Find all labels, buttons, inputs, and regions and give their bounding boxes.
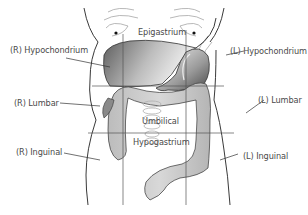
label-l-inguinal: (L) Inguinal <box>243 151 288 161</box>
label-l-lumbar: (L) Lumbar <box>258 95 302 105</box>
label-umbilical: Umbilical <box>142 116 179 126</box>
nipple-right <box>114 31 117 34</box>
nipple-left <box>192 31 195 34</box>
label-hypogastrium: Hypogastrium <box>133 137 190 147</box>
label-r-hypochondrium: (R) Hypochondrium <box>10 45 88 55</box>
label-r-inguinal: (R) Inguinal <box>16 147 62 157</box>
label-epigastrium: Epigastrium <box>138 27 186 37</box>
label-r-lumbar: (R) Lumbar <box>14 98 59 108</box>
label-l-hypochondrium: (L) Hypochondrium <box>230 46 307 56</box>
